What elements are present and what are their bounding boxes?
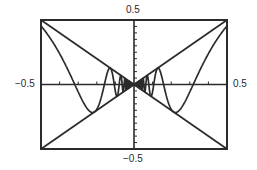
y-min-label: −0.5: [123, 154, 143, 164]
plot: [0, 0, 257, 170]
x-max-label: 0.5: [233, 79, 247, 89]
y-max-label: 0.5: [126, 5, 140, 15]
x-min-label: −0.5: [15, 79, 35, 89]
